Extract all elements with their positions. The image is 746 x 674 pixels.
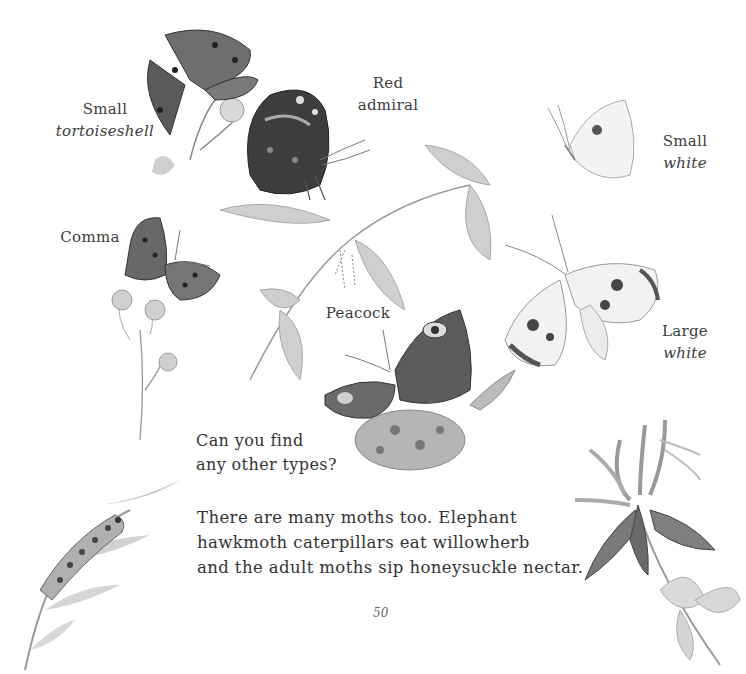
label-small-tortoiseshell-line2: tortoiseshell	[40, 120, 170, 142]
label-small-white: Small white	[650, 130, 720, 174]
label-red-admiral: Red admiral	[338, 72, 438, 116]
hawkmoth-caterpillar-icon	[25, 480, 180, 670]
label-comma-line1: Comma	[50, 226, 130, 248]
small-white-butterfly-icon	[548, 100, 634, 178]
paragraph-line2: hawkmoth caterpillars eat willowherb	[197, 530, 583, 555]
large-white-butterfly-icon	[505, 215, 658, 366]
label-peacock-line1: Peacock	[318, 302, 398, 324]
moth-paragraph: There are many moths too. Elephant hawkm…	[197, 505, 583, 580]
label-red-admiral-line2: admiral	[338, 94, 438, 116]
label-small-white-line2: white	[650, 152, 720, 174]
comma-butterfly-icon	[112, 218, 220, 440]
label-red-admiral-line1: Red	[338, 72, 438, 94]
question-line2: any other types?	[196, 453, 337, 477]
label-small-tortoiseshell: Small tortoiseshell	[40, 98, 170, 142]
hawkmoth-honeysuckle-icon	[575, 420, 740, 665]
label-large-white-line2: white	[650, 342, 720, 364]
label-large-white-line1: Large	[650, 320, 720, 342]
question-text: Can you find any other types?	[196, 429, 337, 477]
label-comma: Comma	[50, 226, 130, 248]
paragraph-line1: There are many moths too. Elephant	[197, 505, 583, 530]
book-page: Small tortoiseshell Red admiral Small wh…	[0, 0, 746, 674]
label-small-white-line1: Small	[650, 130, 720, 152]
label-large-white: Large white	[650, 320, 720, 364]
peacock-butterfly-icon	[325, 310, 515, 470]
paragraph-line3: and the adult moths sip honeysuckle nect…	[197, 555, 583, 580]
question-line1: Can you find	[196, 429, 337, 453]
label-peacock: Peacock	[318, 302, 398, 324]
page-number: 50	[373, 606, 388, 620]
label-small-tortoiseshell-line1: Small	[40, 98, 170, 120]
